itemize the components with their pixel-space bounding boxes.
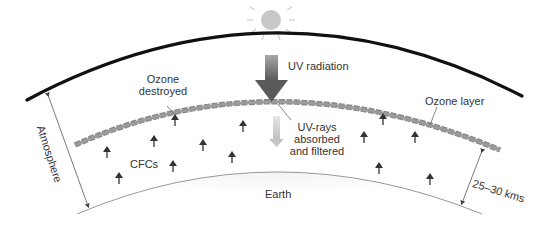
small-up-arrow-icon	[103, 146, 111, 158]
earth-label: Earth	[265, 188, 291, 200]
small-up-arrow-icon	[171, 114, 179, 126]
uv-radiation-label: UV radiation	[288, 60, 349, 72]
small-up-arrow-icon	[199, 139, 207, 151]
ozone-layer-label: Ozone layer	[425, 95, 484, 107]
filtered-uv-arrow	[269, 116, 284, 147]
small-up-arrow-icon	[115, 172, 123, 184]
small-up-arrow-icon	[228, 151, 236, 163]
ozone-altitude-dimension	[462, 151, 482, 203]
cfcs-label: CFCs	[130, 158, 158, 170]
ozone-layer-leader	[430, 107, 437, 125]
small-up-arrow-icon	[426, 173, 434, 185]
ozone-destroyed-label: Ozone destroyed	[134, 73, 192, 97]
small-up-arrow-icon	[169, 160, 177, 172]
uv-radiation-arrow	[255, 55, 288, 102]
small-up-arrow-icon	[360, 131, 368, 143]
small-up-arrow-icon	[411, 131, 419, 143]
small-up-arrow-icon	[375, 162, 383, 174]
uv-rays-label: UV-rays absorbed and filtered	[287, 121, 347, 157]
small-up-arrow-icon	[150, 135, 158, 147]
small-up-arrow-icon	[239, 120, 247, 132]
